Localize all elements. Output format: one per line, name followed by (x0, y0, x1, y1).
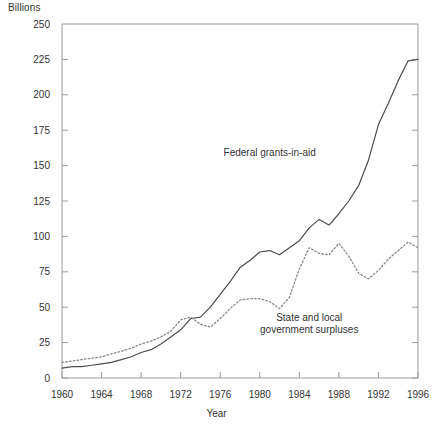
y-tick-label: 175 (33, 125, 50, 136)
y-tick-label: 150 (33, 160, 50, 171)
y-tick-label: 200 (33, 89, 50, 100)
series-annotation-1: State and localgovernment surpluses (260, 312, 358, 335)
y-tick-mark-group (62, 59, 418, 378)
x-tick-label: 1976 (209, 389, 232, 400)
x-tick-label: 1984 (288, 389, 311, 400)
y-tick-label: 250 (33, 19, 50, 30)
series-line-1 (62, 242, 418, 362)
y-tick-label: 225 (33, 54, 50, 65)
series-annotation-group: Federal grants-in-aidState and localgove… (224, 147, 359, 336)
y-tick-label: 100 (33, 231, 50, 242)
y-tick-label-group: 0255075100125150175200225250 (33, 19, 50, 384)
series-path-group (62, 59, 418, 368)
chart-plot-area: 0255075100125150175200225250 19601964196… (0, 0, 433, 428)
x-tick-label: 1980 (249, 389, 272, 400)
series-annotation-0: Federal grants-in-aid (224, 147, 316, 158)
x-axis-title: Year (0, 408, 433, 419)
x-tick-label: 1988 (328, 389, 351, 400)
series-line-0 (62, 59, 418, 368)
y-tick-label: 75 (39, 266, 51, 277)
x-tick-label: 1992 (367, 389, 390, 400)
x-tick-label: 1964 (90, 389, 113, 400)
chart-container: Billions 0255075100125150175200225250 19… (0, 0, 433, 428)
x-tick-mark-group (62, 372, 418, 378)
y-tick-label: 125 (33, 196, 50, 207)
y-tick-label: 0 (44, 373, 50, 384)
x-tick-label: 1996 (407, 389, 430, 400)
x-tick-label-group: 1960196419681972197619801984198819921996 (51, 389, 430, 400)
y-tick-label: 50 (39, 302, 51, 313)
x-tick-label: 1960 (51, 389, 74, 400)
y-tick-label: 25 (39, 337, 51, 348)
plot-frame (62, 24, 418, 378)
x-tick-label: 1972 (170, 389, 193, 400)
x-tick-label: 1968 (130, 389, 153, 400)
